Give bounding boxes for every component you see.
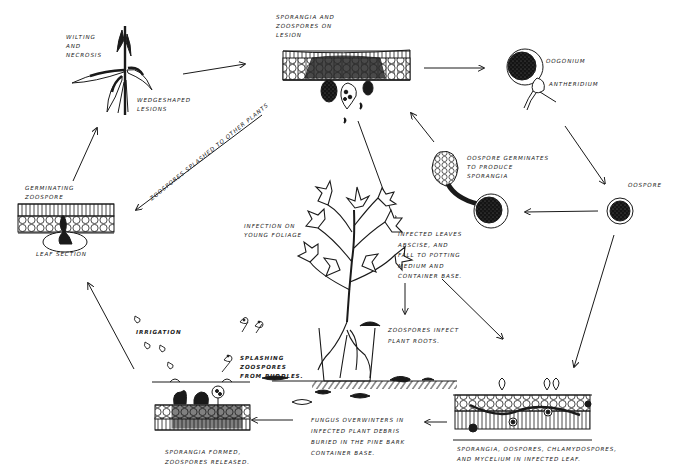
label-infected-leaves: INFECTED LEAVES ABSCISE, AND FALL TO POT… bbox=[398, 229, 462, 282]
label-splashing: SPLASHING ZOOSPORES FROM PUDDLES. bbox=[240, 354, 304, 381]
arrow-germinating-to-lesion bbox=[411, 113, 434, 142]
label-oogonium: OOGONIUM bbox=[546, 57, 586, 66]
label-sporangia-formed: SPORANGIA FORMED, ZOOSPORES RELEASED. bbox=[165, 447, 250, 467]
germinating-zoospore-leaf-section bbox=[18, 204, 114, 252]
potted-plant-illustration bbox=[298, 181, 412, 381]
irrigation-droplets bbox=[134, 316, 173, 369]
arrow-lesion-to-plant bbox=[358, 121, 395, 222]
label-leaf-section: LEAF SECTION bbox=[36, 250, 87, 259]
cycle-arrows bbox=[73, 64, 614, 422]
label-sporangia-lesion: SPORANGIA AND ZOOSPORES ON LESION bbox=[276, 13, 335, 40]
label-irrigation: IRRIGATION bbox=[136, 328, 182, 337]
arrow-oospore-to-germinating bbox=[525, 211, 598, 212]
label-infected-leaf-contents: SPORANGIA, OOSPORES, CHLAMYDOSPORES, AND… bbox=[457, 444, 617, 464]
label-infection-young-foliage: INFECTION ON YOUNG FOLIAGE bbox=[244, 222, 302, 240]
label-oospore: OOSPORE bbox=[628, 181, 662, 190]
lesion-leaf-section bbox=[283, 50, 410, 123]
label-fungus-overwinters: FUNGUS OVERWINTERS IN INFECTED PLANT DEB… bbox=[311, 415, 405, 459]
arrow-oospore-to-infected-leaf bbox=[574, 235, 614, 367]
arrow-leafsection-to-wilting bbox=[73, 128, 97, 181]
label-oospore-germinates: OOSPORE GERMINATES TO PRODUCE SPORANGIA bbox=[467, 154, 549, 181]
arrow-wilting-to-lesion bbox=[183, 64, 245, 74]
label-antheridium: ANTHERIDIUM bbox=[549, 80, 598, 89]
infected-leaf-section bbox=[453, 378, 592, 440]
label-wilting: WILTING AND NECROSIS bbox=[66, 33, 102, 60]
label-wedge-lesions: WEDGESHAPED LESIONS bbox=[137, 96, 191, 114]
label-zoospores-infect-roots: ZOOSPORES INFECT PLANT ROOTS. bbox=[388, 325, 459, 346]
sporangia-splash-section bbox=[152, 379, 250, 430]
disease-cycle-diagram bbox=[0, 0, 679, 476]
arrow-splash-to-leafsection bbox=[88, 283, 134, 369]
label-germinating-zoospore: GERMINATING ZOOSPORE bbox=[25, 184, 74, 202]
oospore-illustration bbox=[607, 198, 633, 224]
arrow-oogonium-to-oospore bbox=[565, 126, 605, 184]
